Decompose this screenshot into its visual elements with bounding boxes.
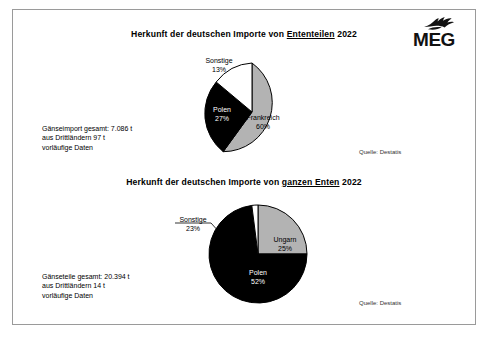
chart-1-note-line-3: vorläufige Daten: [42, 143, 132, 152]
chart-1-label-sonstige: Sonstige 13%: [194, 56, 244, 74]
chart-1-label-frankreich-name: Frankreich: [246, 114, 279, 121]
chart-2-note-line-3: vorläufige Daten: [42, 291, 130, 300]
chart-2-label-polen: Polen 52%: [239, 268, 277, 286]
chart-2-note-line-1: Gänseteile gesamt: 20.394 t: [42, 272, 130, 281]
chart-2-label-polen-pct: 52%: [239, 277, 277, 286]
chart-2-label-sonstige-name: Sonstige: [179, 216, 206, 223]
chart-2-pie-svg: [206, 202, 310, 306]
chart-2-label-sonstige: Sonstige 23%: [168, 215, 218, 233]
chart-2-title-suffix: 2022: [340, 177, 362, 187]
chart-1-label-polen-name: Polen: [213, 106, 231, 113]
chart-2-note-line-2: aus Drittländern 14 t: [42, 281, 130, 290]
chart-1-title-suffix: 2022: [335, 29, 357, 39]
chart-1-note: Gänseimport gesamt: 7.086 t aus Drittlän…: [42, 124, 132, 152]
chart-2-note: Gänseteile gesamt: 20.394 t aus Drittlän…: [42, 272, 130, 300]
chart-1-label-sonstige-name: Sonstige: [205, 57, 232, 64]
chart-1-label-polen: Polen 27%: [203, 105, 241, 123]
chart-1-label-sonstige-pct: 13%: [194, 65, 244, 74]
slide-frame: MEG Herkunft der deutschen Importe von E…: [12, 9, 476, 325]
chart-1-source: Quelle: Destatis: [359, 149, 401, 155]
chart-2-label-ungarn-pct: 25%: [265, 244, 305, 253]
chart-2-title-prefix: Herkunft der deutschen Importe von: [126, 177, 282, 187]
chart-2-title-emphasis: ganzen Enten: [282, 177, 340, 187]
chart-2-pie: [206, 202, 310, 306]
chart-1-title-emphasis: Ententeilen: [287, 29, 335, 39]
chart-1-label-frankreich-pct: 60%: [239, 122, 287, 131]
chart-2-label-polen-name: Polen: [249, 269, 267, 276]
chart-1-title-prefix: Herkunft der deutschen Importe von: [131, 29, 287, 39]
chart-2-source: Quelle: Destatis: [359, 300, 401, 306]
chart-2-label-ungarn: Ungarn 25%: [265, 235, 305, 253]
chart-1-title: Herkunft der deutschen Importe von Enten…: [13, 29, 475, 39]
chart-1-label-frankreich: Frankreich 60%: [239, 113, 287, 131]
chart-1-label-polen-pct: 27%: [203, 114, 241, 123]
chart-1-note-line-2: aus Drittländern 97 t: [42, 133, 132, 142]
chart-2-label-sonstige-pct: 23%: [168, 224, 218, 233]
chart-1-note-line-1: Gänseimport gesamt: 7.086 t: [42, 124, 132, 133]
chart-2-label-ungarn-name: Ungarn: [274, 236, 297, 243]
chart-2-title: Herkunft der deutschen Importe von ganze…: [13, 177, 475, 187]
